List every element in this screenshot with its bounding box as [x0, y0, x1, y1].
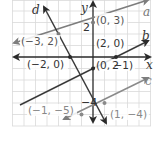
point-label-0-3: (0, 3) — [96, 14, 124, 26]
line-a-label: a — [143, 5, 150, 19]
point-label-2-0: (2, 0) — [96, 37, 124, 49]
tick-y-neg4: −4 — [81, 96, 97, 109]
point-label-1-neg4: (1, −4) — [110, 108, 147, 120]
y-axis-label: y — [80, 1, 88, 15]
line-c-label: c — [145, 74, 152, 88]
x-axis-label: x — [146, 58, 153, 72]
point-label-neg2-0: (−2, 0) — [27, 58, 64, 70]
point-label-neg1-neg5: (−1, −5) — [28, 104, 74, 116]
line-d-label: d — [32, 3, 40, 17]
point-label-0-neg1: (0, −1) — [96, 59, 133, 71]
tick-y-2: 2 — [83, 21, 90, 34]
coordinate-plane: x y 2 2 −4 a b c d (−3, 2) (−2, 0) (0, 3… — [0, 0, 158, 144]
line-b-label: b — [142, 29, 150, 43]
point-label-neg3-2: (−3, 2) — [21, 35, 58, 47]
